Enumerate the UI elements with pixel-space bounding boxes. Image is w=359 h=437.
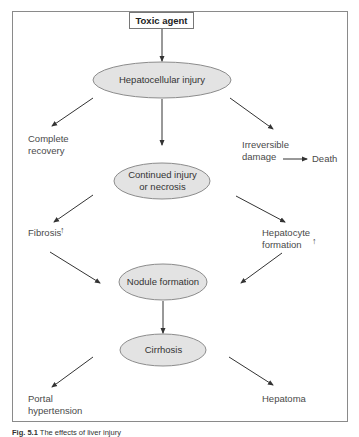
arrow-to-complete-recovery [52, 98, 93, 126]
hepatocyte-formation-label: Hepatocyte formation [262, 227, 310, 251]
hepatoma-label: Hepatoma [262, 393, 306, 405]
portal-hypertension-line1: Portal [28, 393, 82, 405]
irreversible-damage-label: Irreversible damage [242, 139, 289, 163]
portal-hypertension-line2: hypertension [28, 405, 82, 417]
complete-recovery-line1: Complete [28, 133, 69, 145]
arrow-to-hepatocyte-formation [236, 196, 285, 222]
fibrosis-label: Fibrosis [28, 227, 61, 239]
increase-arrow-icon: ↑ [60, 225, 65, 235]
arrow-fibrosis-to-nodule [50, 252, 100, 283]
irreversible-damage-line1: Irreversible [242, 139, 289, 151]
arrow-to-portal-hypertension [52, 357, 93, 387]
complete-recovery-line2: recovery [28, 145, 69, 157]
complete-recovery-label: Complete recovery [28, 133, 69, 157]
caption-label: Fig. 5.1 [12, 428, 38, 437]
cirrhosis-label: Cirrhosis [120, 344, 207, 356]
toxic-agent-box: Toxic agent [129, 12, 194, 29]
arrow-to-irreversible-damage [230, 98, 273, 129]
increase-arrow-icon: ↑ [312, 236, 317, 246]
continued-injury-label: Continued injury or necrosis [114, 169, 211, 193]
hepatocyte-formation-line1: Hepatocyte [262, 227, 310, 239]
flow-diagram [0, 0, 359, 437]
caption-text: The effects of liver injury [40, 428, 121, 437]
arrow-to-fibrosis [54, 195, 93, 222]
arrow-to-hepatoma [229, 357, 273, 385]
irreversible-damage-line2: damage [242, 151, 289, 163]
hepatocellular-injury-label: Hepatocellular injury [93, 74, 231, 86]
arrow-hepatocyte-to-nodule [241, 253, 282, 283]
portal-hypertension-label: Portal hypertension [28, 393, 82, 417]
continued-injury-line2: or necrosis [114, 181, 211, 193]
continued-injury-line1: Continued injury [114, 169, 211, 181]
figure-caption: Fig. 5.1 The effects of liver injury [12, 428, 121, 437]
nodule-formation-label: Nodule formation [119, 276, 207, 288]
hepatocyte-formation-line2: formation [262, 239, 310, 251]
death-label: Death [312, 153, 337, 165]
